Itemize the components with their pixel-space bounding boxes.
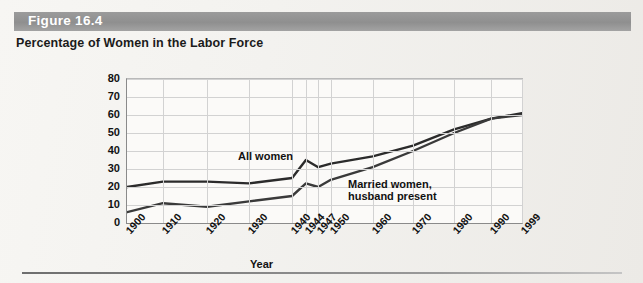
- y-axis-tick-label: 60: [94, 108, 120, 120]
- gridline-horizontal: [127, 115, 522, 116]
- gridline-horizontal: [127, 205, 522, 206]
- series-label-married-line1: Married women,: [348, 178, 437, 190]
- x-axis-title: Year: [0, 258, 643, 270]
- y-axis-tick-label: 20: [94, 180, 120, 192]
- y-axis-tick-label: 70: [94, 90, 120, 102]
- y-axis-tick-labels: 01020304050607080: [92, 78, 120, 222]
- y-axis-tick-label: 80: [94, 72, 120, 84]
- gridline-horizontal: [127, 151, 522, 152]
- gridline-vertical: [331, 79, 332, 223]
- series-label-married-women: Married women, husband present: [348, 178, 437, 202]
- gridline-vertical: [318, 79, 319, 223]
- series-line: [127, 115, 522, 212]
- series-label-married-line2: husband present: [348, 190, 437, 202]
- x-axis-title-text: Year: [250, 258, 273, 270]
- y-axis-tick-label: 40: [94, 144, 120, 156]
- page-footer-rule: [22, 272, 622, 274]
- gridline-vertical: [306, 79, 307, 223]
- y-axis-tick-label: 30: [94, 162, 120, 174]
- gridline-horizontal: [127, 187, 522, 188]
- gridline-horizontal: [127, 169, 522, 170]
- y-axis-tick-label: 10: [94, 198, 120, 210]
- gridline-horizontal: [127, 133, 522, 134]
- plot-area: [126, 78, 523, 224]
- gridline-horizontal: [127, 97, 522, 98]
- gridline-vertical: [454, 79, 455, 223]
- series-label-all-women: All women: [238, 150, 293, 162]
- gridline-horizontal: [127, 79, 522, 80]
- gridline-vertical: [491, 79, 492, 223]
- line-chart: 01020304050607080 1900191019201930194019…: [0, 0, 643, 283]
- gridline-vertical: [522, 79, 523, 223]
- gridline-vertical: [163, 79, 164, 223]
- gridline-vertical: [207, 79, 208, 223]
- y-axis-tick-label: 50: [94, 126, 120, 138]
